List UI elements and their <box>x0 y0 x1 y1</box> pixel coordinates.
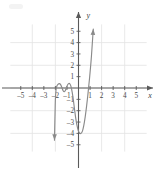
graph-figure: –5–4–3–2–112345 –5–4–3–2–112345 x y <box>0 0 158 171</box>
y-tick-label: 1 <box>70 73 74 81</box>
x-tick-label: –5 <box>16 92 25 100</box>
y-tick-label: –3 <box>66 119 75 127</box>
x-axis-label: x <box>147 91 152 100</box>
curve-arrowhead-start <box>52 134 57 140</box>
y-tick-label: 4 <box>70 39 74 47</box>
y-tick-label: –4 <box>66 130 75 138</box>
y-axis-label: y <box>86 11 91 20</box>
x-tick-label: 2 <box>100 92 104 100</box>
y-tick-label: 5 <box>70 28 74 36</box>
coordinate-plane: –5–4–3–2–112345 –5–4–3–2–112345 x y <box>0 0 158 171</box>
x-tick-label: 1 <box>88 92 92 100</box>
x-tick-labels: –5–4–3–2–112345 <box>16 92 138 100</box>
x-tick-label: 4 <box>123 92 127 100</box>
y-tick-label: –2 <box>66 107 75 115</box>
x-tick-label: 3 <box>111 92 115 100</box>
x-tick-label: 5 <box>134 92 138 100</box>
y-tick-label: 2 <box>70 62 74 70</box>
curve-arrowhead-end <box>91 29 96 35</box>
x-tick-label: –4 <box>28 92 37 100</box>
y-tick-label: 3 <box>70 51 74 59</box>
y-tick-label: –5 <box>66 141 75 149</box>
x-tick-label: –3 <box>39 92 48 100</box>
